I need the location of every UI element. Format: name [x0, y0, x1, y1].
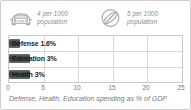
x-tick-label: 5: [41, 84, 45, 92]
stat-value-vehicles: 4 per 1000: [37, 10, 68, 18]
stat-label-telephones: 5 per 1000 population: [127, 10, 158, 26]
stat-unit-telephones: population: [127, 18, 158, 26]
bar-label: Defense 1.6%: [12, 38, 56, 49]
stat-value-telephones: 5 per 1000: [127, 10, 158, 18]
bar-label: Education 3%: [12, 53, 57, 64]
bar-row[interactable]: Education 3%: [9, 51, 182, 66]
chart-x-axis: 0510152025: [8, 84, 183, 93]
chart-caption: Defense, Health, Education spending as %…: [9, 94, 187, 103]
stat-item-telephones: 5 per 1000 population: [99, 5, 158, 31]
stat-item-vehicles: 4 per 1000 population: [9, 5, 68, 31]
bar-row[interactable]: Defense 1.6%: [9, 36, 182, 51]
car-icon: [9, 7, 33, 29]
chart-bars: Defense 1.6%Education 3%Health 3%: [9, 36, 182, 82]
satellite-dish-icon: [99, 7, 123, 29]
stat-unit-vehicles: population: [37, 18, 68, 26]
bar-label: Health 3%: [12, 69, 45, 80]
x-tick-label: 0: [6, 84, 10, 92]
statistics-widget: 4 per 1000 population 5 per 1000 populat…: [0, 0, 191, 110]
x-tick-label: 25: [177, 84, 184, 92]
stats-row: 4 per 1000 population 5 per 1000 populat…: [1, 1, 190, 34]
x-tick-label: 20: [142, 84, 149, 92]
spending-bar-chart: Defense 1.6%Education 3%Health 3%: [8, 35, 183, 83]
stat-label-vehicles: 4 per 1000 population: [37, 10, 68, 26]
x-tick-label: 15: [108, 84, 115, 92]
bar-row[interactable]: Health 3%: [9, 67, 182, 82]
x-tick-label: 10: [73, 84, 80, 92]
